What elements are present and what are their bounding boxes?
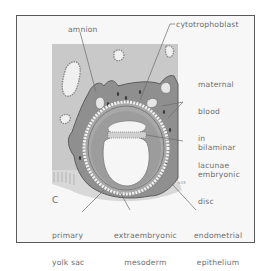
bilaminar-disc — [108, 132, 146, 138]
label-extraembryonic-mesoderm: extraembryonic mesoderm — [114, 213, 177, 271]
label-cytotrophoblast: cytotrophoblast — [176, 20, 239, 29]
label-line: epithelium — [194, 258, 242, 267]
label-amnion: amnion — [68, 25, 98, 34]
label-line: endometrial — [194, 231, 242, 240]
label-primary-yolk-sac: primary yolk sac — [52, 213, 84, 271]
label-line: maternal — [198, 80, 234, 89]
panel-letter: C — [52, 195, 58, 205]
label-endometrial-epithelium: endometrial epithelium — [194, 213, 242, 271]
label-bilaminar-disc: bilaminar embryonic disc — [198, 125, 240, 215]
label-line: blood — [198, 107, 234, 116]
label-line: primary — [52, 231, 84, 240]
label-line: yolk sac — [52, 258, 84, 267]
scale-note: x45 — [178, 178, 186, 187]
label-line: disc — [198, 197, 240, 206]
label-line: mesoderm — [114, 258, 177, 267]
label-line: bilaminar — [198, 143, 240, 152]
label-line: extraembryonic — [114, 231, 177, 240]
label-line: embryonic — [198, 170, 240, 179]
